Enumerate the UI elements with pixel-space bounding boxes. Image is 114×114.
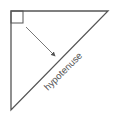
right-triangle-diagram: hypotenuse <box>0 0 114 114</box>
arrow-to-hypotenuse <box>26 27 55 56</box>
right-angle-marker <box>11 11 23 23</box>
triangle <box>11 11 108 110</box>
